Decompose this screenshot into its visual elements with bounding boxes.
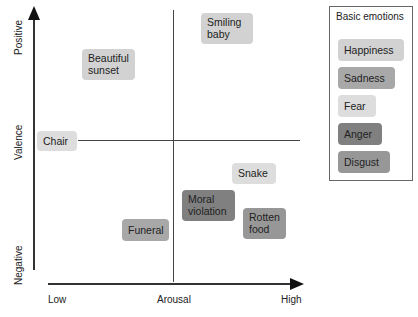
legend-item-happiness: Happiness (338, 39, 404, 61)
valence-midline (78, 140, 300, 141)
box-smiling-baby: Smiling baby (201, 13, 253, 44)
box-text: Smiling (207, 16, 247, 28)
box-text: Rotten (249, 211, 280, 223)
legend-item-fear: Fear (338, 95, 376, 117)
box-text: Chair (43, 135, 68, 147)
legend: Basic emotions Happiness Sadness Fear An… (329, 6, 413, 181)
legend-title: Basic emotions (336, 11, 404, 22)
box-text: food (249, 223, 280, 235)
y-label-positive: Positive (13, 20, 24, 55)
box-text: Snake (238, 167, 268, 179)
x-label-high: High (281, 294, 302, 305)
y-label-valence: Valence (13, 125, 24, 160)
y-label-negative: Negative (13, 246, 24, 285)
x-label-arousal: Arousal (157, 294, 191, 305)
box-funeral: Funeral (122, 219, 169, 241)
legend-item-sadness: Sadness (338, 67, 395, 89)
x-axis-arrow-icon (290, 277, 304, 291)
box-text: baby (207, 28, 247, 40)
box-moral-violation: Moral violation (182, 190, 235, 221)
legend-item-anger: Anger (338, 123, 382, 145)
box-text: sunset (88, 64, 129, 76)
y-axis-arrow-icon (27, 6, 41, 20)
box-rotten-food: Rotten food (243, 208, 286, 239)
box-text: Beautiful (88, 52, 129, 64)
arousal-midline (173, 10, 174, 282)
box-text: Moral (188, 193, 229, 205)
box-snake: Snake (232, 163, 276, 184)
x-label-low: Low (48, 294, 66, 305)
box-chair: Chair (37, 131, 77, 151)
x-axis (48, 283, 294, 285)
box-text: Funeral (128, 224, 164, 236)
box-beautiful-sunset: Beautiful sunset (82, 49, 135, 80)
box-text: violation (188, 205, 229, 217)
legend-item-disgust: Disgust (338, 151, 390, 173)
y-axis (33, 14, 35, 270)
